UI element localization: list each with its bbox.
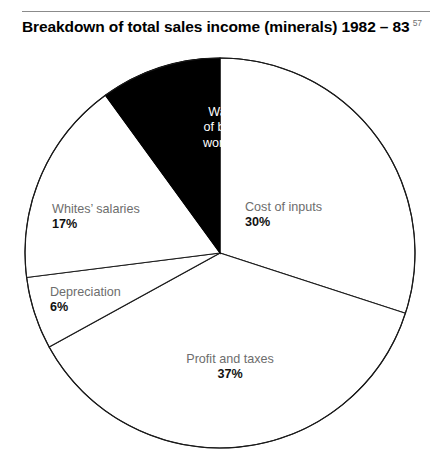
slice-name-profit-and-taxes: Profit and taxes [150,352,310,367]
slice-value-profit-and-taxes: 37% [150,367,310,382]
pie-chart [0,0,440,476]
figure-container: Breakdown of total sales income (mineral… [0,0,440,476]
slice-name-whites-salaries: Whites’ salaries [52,202,202,217]
slice-label-wages-line2: of black [163,120,247,135]
slice-label-depreciation: Depreciation 6% [50,285,190,316]
slice-name-cost-of-inputs: Cost of inputs [245,200,385,215]
slice-name-depreciation: Depreciation [50,285,190,300]
slice-value-cost-of-inputs: 30% [245,215,385,230]
slice-label-cost-of-inputs: Cost of inputs 30% [245,200,385,231]
slice-label-profit-and-taxes: Profit and taxes 37% [150,352,310,383]
slice-label-wages-line3: workers [163,136,247,151]
slice-label-whites-salaries: Whites’ salaries 17% [52,202,202,233]
slice-label-wages-line1: Wages [163,105,247,120]
slice-value-wages: 10% [163,151,247,166]
slice-value-whites-salaries: 17% [52,217,202,232]
slice-label-wages-of-black-workers: Wages of black workers 10% [163,105,247,166]
slice-value-depreciation: 6% [50,300,190,315]
